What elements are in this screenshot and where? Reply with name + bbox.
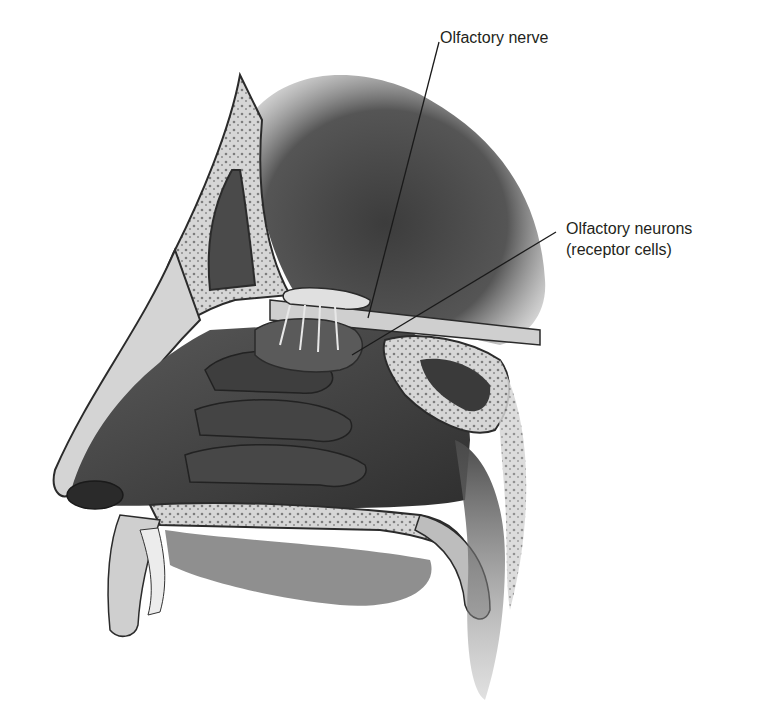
nasal-cavity-illustration bbox=[0, 0, 761, 725]
olfactory-neurons-label-line1: Olfactory neurons bbox=[566, 218, 692, 239]
olfactory-neurons-label-line2: (receptor cells) bbox=[566, 239, 692, 260]
olfactory-neurons-label: Olfactory neurons (receptor cells) bbox=[566, 218, 692, 260]
oral-shadow bbox=[165, 530, 432, 606]
nostril bbox=[67, 481, 123, 509]
olfactory-nerve-label: Olfactory nerve bbox=[440, 27, 548, 48]
olfactory-epithelium bbox=[255, 319, 362, 372]
